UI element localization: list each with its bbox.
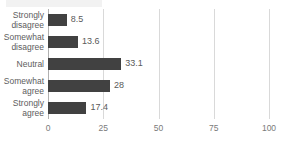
bar: [48, 102, 86, 114]
bar: [48, 80, 110, 92]
category-label: Neutral: [0, 59, 44, 69]
bar: [48, 58, 121, 70]
x-tick-50: 50: [154, 123, 163, 133]
category-label: Strongly disagree: [0, 10, 44, 30]
bar-value-label: 8.5: [71, 13, 84, 25]
bar-row: 13.6: [48, 31, 269, 53]
bar-row: 28: [48, 75, 269, 97]
bar-value-label: 13.6: [82, 35, 100, 47]
bar-chart: 8.513.633.12817.4 Strongly disagreeSomew…: [0, 0, 289, 141]
x-tick-75: 75: [209, 123, 218, 133]
bar-row: 8.5: [48, 9, 269, 31]
x-tick-0: 0: [46, 123, 51, 133]
bar-value-label: 33.1: [125, 57, 143, 69]
bar: [48, 36, 78, 48]
bar-row: 33.1: [48, 53, 269, 75]
bar-row: 17.4: [48, 97, 269, 119]
category-label: Somewhat disagree: [0, 32, 44, 52]
bar-value-label: 17.4: [90, 101, 108, 113]
gridline-100: [269, 9, 270, 119]
category-label: Strongly agree: [0, 98, 44, 118]
bar-value-label: 28: [114, 79, 124, 91]
x-tick-25: 25: [99, 123, 108, 133]
chart-title-band: [6, 0, 102, 7]
plot-area: 8.513.633.12817.4: [48, 9, 269, 119]
x-tick-100: 100: [262, 123, 276, 133]
bar: [48, 14, 67, 26]
category-label: Somewhat agree: [0, 76, 44, 96]
